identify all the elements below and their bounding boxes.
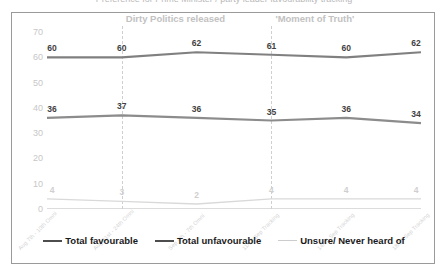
data-label: 4: [269, 185, 274, 195]
legend-color-swatch: [155, 240, 174, 242]
data-label: 34: [411, 109, 420, 119]
data-label: 61: [267, 41, 276, 51]
data-label: 36: [192, 104, 201, 114]
data-label: 4: [344, 185, 349, 195]
data-label: 35: [267, 107, 276, 117]
annotation-label-rest: released: [184, 13, 225, 24]
annotation-label: Dirty Politics released: [126, 13, 225, 24]
data-label: 36: [341, 104, 350, 114]
legend-label: Unsure/ Never heard of: [300, 235, 405, 246]
legend-item[interactable]: Total favourable: [43, 235, 138, 246]
plot-area: 706050403020100 Dirty Politics released'…: [47, 32, 421, 209]
cutoff-page-title: Preference for Prime Minister / party le…: [0, 0, 448, 12]
legend-label: Total favourable: [65, 235, 138, 246]
legend-color-swatch: [43, 240, 62, 242]
y-axis-tick: 0: [38, 204, 43, 214]
chart-container: 706050403020100 Dirty Politics released'…: [11, 12, 435, 264]
data-label: 60: [47, 43, 56, 53]
cutoff-page-title-text: Preference for Prime Minister / party le…: [96, 0, 353, 4]
y-axis-tick: 50: [33, 78, 43, 88]
chart-legend: Total favourableTotal unfavourableUnsure…: [12, 235, 436, 246]
legend-label: Total unfavourable: [177, 235, 261, 246]
data-label: 62: [192, 38, 201, 48]
y-axis-tick: 30: [33, 128, 43, 138]
x-axis-tick-labels: Aug 7th - 10th OmniAug 21st - 24th OmniS…: [47, 211, 421, 257]
legend-item[interactable]: Total unfavourable: [155, 235, 261, 246]
legend-color-swatch: [278, 240, 297, 241]
legend-item[interactable]: Unsure/ Never heard of: [278, 235, 405, 246]
annotation-label: 'Moment of Truth': [275, 13, 354, 24]
data-label: 37: [117, 101, 126, 111]
data-label: 4: [50, 185, 55, 195]
y-axis-tick: 60: [33, 52, 43, 62]
data-label: 3: [119, 187, 124, 197]
y-axis-tick: 40: [33, 103, 43, 113]
series-line-2: [47, 199, 421, 204]
series-line-1: [47, 115, 421, 123]
data-label: 62: [411, 38, 420, 48]
y-axis-tick: 10: [33, 179, 43, 189]
series-line-0: [47, 52, 421, 57]
y-axis-tick: 70: [33, 27, 43, 37]
annotation-label-emphasis: Dirty Politics: [126, 13, 184, 24]
y-axis-tick: 20: [33, 153, 43, 163]
data-label: 4: [414, 185, 419, 195]
series-lines: [47, 32, 421, 209]
data-label: 60: [117, 43, 126, 53]
data-label: 2: [194, 190, 199, 200]
data-label: 36: [47, 104, 56, 114]
data-label: 60: [341, 43, 350, 53]
